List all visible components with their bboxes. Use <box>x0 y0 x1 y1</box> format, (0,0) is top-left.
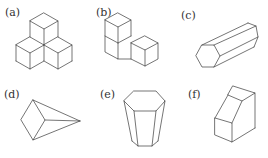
figure-a-cubes <box>16 13 72 69</box>
figure-c-hex-prism <box>196 23 258 67</box>
figure-f-block <box>215 86 255 142</box>
figure-b-cubes <box>105 13 158 66</box>
figure-d-pyramid <box>21 100 80 140</box>
figures-canvas <box>0 0 268 158</box>
figure-e-frustum <box>124 91 165 146</box>
